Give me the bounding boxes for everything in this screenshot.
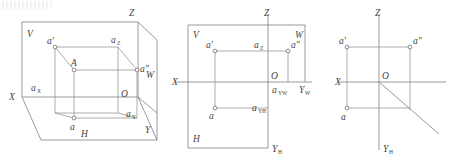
figure-sheet: V Z X Y W H O a' A a″ a a Z a X a Y <box>0 0 452 165</box>
right-point-a-profile <box>408 45 412 49</box>
panel-right-axis-only: Z X Y H O a' a″ a <box>0 0 452 165</box>
right-label-a-horizontal: a <box>341 112 346 122</box>
right-label-origin: O <box>382 71 389 81</box>
right-label-x-axis: X <box>334 77 342 87</box>
right-label-z-axis: Z <box>375 8 381 18</box>
right-label-a-profile: a″ <box>413 36 423 46</box>
right-point-a-horizontal <box>345 106 349 110</box>
right-label-a-front: a' <box>339 36 347 46</box>
right-label-yh-sub: H <box>389 149 393 155</box>
